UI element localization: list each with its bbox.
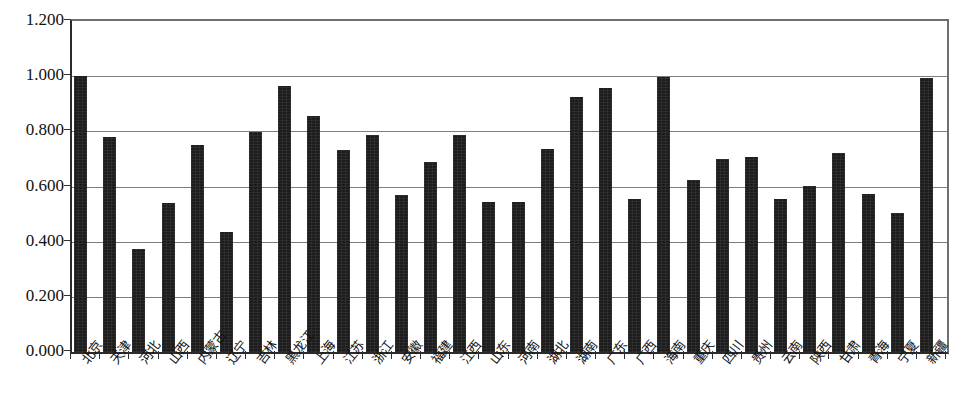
bar-chart: 0.0000.2000.4000.6000.8001.0001.200 北京天津… xyxy=(0,0,961,410)
bar xyxy=(599,88,612,352)
y-tick-label: 0.000 xyxy=(0,342,64,359)
bar xyxy=(716,159,729,352)
bar xyxy=(541,149,554,352)
bar xyxy=(132,249,145,352)
bar xyxy=(482,202,495,352)
bar xyxy=(307,116,320,352)
bar xyxy=(74,76,87,352)
y-tick-label: 0.400 xyxy=(0,232,64,249)
bar xyxy=(687,180,700,352)
bar xyxy=(395,195,408,352)
bar xyxy=(424,162,437,352)
bar xyxy=(891,213,904,352)
bar xyxy=(278,86,291,352)
bar xyxy=(453,135,466,352)
y-tick-mark xyxy=(64,19,70,20)
y-tick-label: 0.200 xyxy=(0,287,64,304)
plot-area xyxy=(70,19,949,354)
bar xyxy=(512,202,525,352)
bar xyxy=(249,132,262,352)
bar xyxy=(920,78,933,352)
bar xyxy=(745,157,758,352)
bar xyxy=(103,137,116,352)
y-tick-mark xyxy=(64,350,70,351)
y-axis: 0.0000.2000.4000.6000.8001.0001.200 xyxy=(0,0,64,410)
bar xyxy=(628,199,641,352)
bar xyxy=(191,145,204,352)
y-tick-mark xyxy=(64,185,70,186)
bar xyxy=(832,153,845,352)
y-tick-mark xyxy=(64,129,70,130)
y-tick-mark xyxy=(64,295,70,296)
bar xyxy=(862,194,875,352)
y-tick-label: 0.600 xyxy=(0,177,64,194)
bar xyxy=(774,199,787,352)
bars-group xyxy=(72,21,947,352)
y-tick-mark xyxy=(64,240,70,241)
bar xyxy=(657,77,670,352)
bar xyxy=(803,186,816,352)
y-tick-label: 1.000 xyxy=(0,66,64,83)
bar xyxy=(570,97,583,352)
y-tick-label: 0.800 xyxy=(0,121,64,138)
bar xyxy=(162,203,175,352)
bar xyxy=(366,135,379,352)
y-tick-label: 1.200 xyxy=(0,11,64,28)
x-axis-labels: 北京天津河北山西内蒙古辽宁吉林黑龙江上海江苏浙江安徽福建江西山东河南湖北湖南广东… xyxy=(70,358,949,410)
bar xyxy=(337,150,350,352)
y-tick-mark xyxy=(64,74,70,75)
